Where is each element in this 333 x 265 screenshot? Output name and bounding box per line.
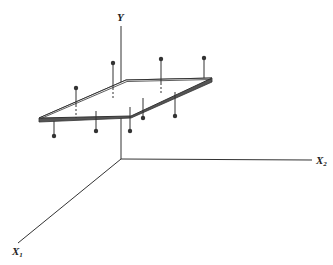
data-point [173,114,177,118]
x1-axis-label: X1 [11,245,23,259]
regression-plane-diagram: Y X2 X1 [0,0,333,265]
data-point [111,61,115,65]
data-point [94,129,98,133]
regression-plane [39,78,212,118]
data-point [128,129,132,133]
x1-label-subscript: 1 [19,251,23,259]
x2-label-subscript: 2 [322,160,327,168]
data-point [74,86,78,90]
x2-axis-label: X2 [315,154,327,168]
x2-axis [121,159,312,160]
data-point [141,116,145,120]
data-point [202,56,206,60]
data-point [52,134,56,138]
data-point [159,57,163,61]
x1-axis [18,159,121,243]
y-axis-label: Y [117,11,125,23]
